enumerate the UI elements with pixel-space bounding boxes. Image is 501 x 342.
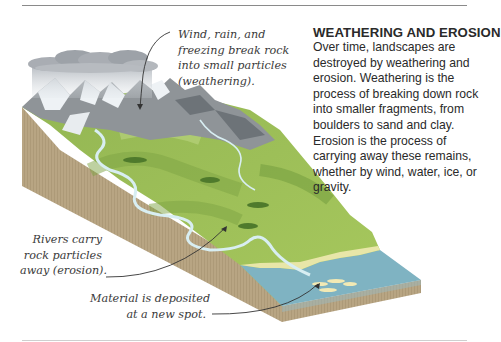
annotation-deposition: Material is deposited at a new spot. (90, 291, 206, 322)
annotation-erosion: Rivers carry rock particles away (erosio… (20, 232, 102, 279)
annotation-line: rock particles (20, 248, 102, 264)
annotation-line: Wind, rain, and (178, 27, 289, 43)
annotation-line: freezing break rock (178, 43, 289, 59)
annotation-line: away (erosion). (20, 263, 102, 279)
sediment-deposit (312, 282, 328, 286)
annotation-line: at a new spot. (90, 307, 206, 323)
annotation-line: (weathering). (178, 74, 289, 90)
annotation-line: Material is deposited (90, 291, 206, 307)
annotation-line: Rivers carry (20, 232, 102, 248)
annotation-weathering: Wind, rain, and freezing break rock into… (178, 27, 289, 89)
section-title: WEATHERING AND EROSION (313, 25, 501, 40)
annotation-line: into small particles (178, 58, 289, 74)
storm-clouds (28, 50, 158, 98)
section-description: Over time, landscapes are destroyed by w… (313, 40, 485, 196)
